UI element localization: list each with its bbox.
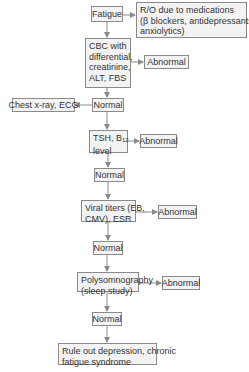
node-normal-1: Normal: [92, 98, 124, 112]
node-polysomnography: Polysomnography (sleep study): [77, 272, 139, 292]
node-normal-4: Normal: [92, 312, 122, 326]
tsh-text: TSH, B: [93, 133, 122, 143]
node-fatigue: Fatigue: [91, 6, 123, 22]
node-label: Normal: [93, 314, 122, 325]
b12-subscript: 12: [122, 137, 129, 143]
node-abnormal-2: Abnormal: [140, 134, 177, 148]
node-normal-3: Normal: [93, 241, 123, 255]
node-chest-xray-ecg: Chest x-ray, ECG: [12, 98, 75, 112]
node-text-line: fatigue syndrome: [62, 357, 153, 368]
node-text-line: differential,: [89, 52, 127, 63]
node-fatigue-label: Fatigue: [92, 9, 122, 20]
node-rule-out-depression: Rule out depression, chronic fatigue syn…: [58, 343, 157, 365]
node-text-line: Viral titers (EB,: [85, 203, 132, 214]
node-label: Abnormal: [139, 136, 178, 147]
node-abnormal-1: Abnormal: [144, 55, 189, 69]
node-label: Abnormal: [147, 57, 186, 68]
node-text-line: (β blockers, antidepressants,: [140, 16, 243, 27]
node-text-line: ALT, FBS: [89, 73, 127, 84]
node-text-line: Polysomnography: [81, 275, 135, 286]
node-text-line: level: [93, 146, 124, 157]
node-rule-out-medications: R/O due to medications (β blockers, anti…: [136, 2, 247, 38]
node-label: Normal: [94, 243, 123, 254]
node-label: Normal: [94, 100, 123, 111]
node-tsh-b12: TSH, B12 level: [89, 130, 128, 153]
node-text-line: anxiolytics): [140, 26, 243, 37]
node-abnormal-3: Abnormal: [158, 205, 197, 219]
node-text-line: creatinine,: [89, 62, 127, 73]
node-text-line: R/O due to medications: [140, 5, 243, 16]
node-label: Abnormal: [162, 278, 201, 289]
node-label: Abnormal: [158, 207, 197, 218]
node-label: Chest x-ray, ECG: [9, 100, 79, 111]
node-text-line: Rule out depression, chronic: [62, 346, 153, 357]
node-abnormal-4: Abnormal: [162, 276, 200, 290]
node-cbc: CBC with differential, creatinine, ALT, …: [85, 38, 131, 88]
node-text-line: (sleep study): [81, 286, 135, 297]
node-normal-2: Normal: [94, 168, 125, 182]
node-text-line: CBC with: [89, 41, 127, 52]
node-viral-titers: Viral titers (EB, CMV), ESR: [81, 200, 136, 222]
node-text-line: TSH, B12: [93, 133, 124, 146]
node-label: Normal: [95, 170, 124, 181]
node-text-line: CMV), ESR: [85, 214, 132, 225]
